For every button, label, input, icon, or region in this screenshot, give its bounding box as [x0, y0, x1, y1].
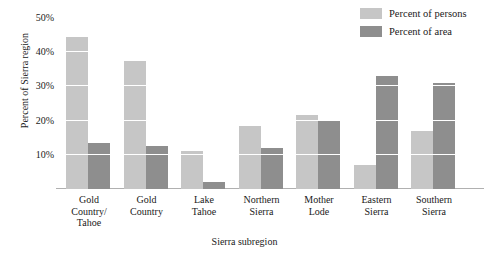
y-axis-tick-label: 10% — [20, 150, 54, 160]
y-axis-tick-label: 40% — [20, 47, 54, 57]
bar-percent-of-area — [146, 146, 168, 189]
y-axis-tick-label: 30% — [20, 81, 54, 91]
bar-chart: Percent of persons Percent of area Perce… — [0, 0, 489, 258]
x-axis-label-line: Tahoe — [47, 217, 131, 229]
gridline — [58, 154, 482, 155]
bar-group — [66, 18, 112, 189]
gridline — [58, 51, 482, 52]
bar-percent-of-persons — [66, 37, 88, 189]
bar-percent-of-area — [203, 182, 225, 189]
x-axis-label-line: Southern — [392, 194, 476, 206]
gridline — [58, 120, 482, 121]
bar-group — [124, 18, 170, 189]
x-axis-title: Sierra subregion — [0, 236, 489, 247]
bar-percent-of-persons — [181, 151, 203, 189]
gridline — [58, 85, 482, 86]
y-axis-tick-label: 50% — [20, 13, 54, 23]
bar-percent-of-persons — [296, 115, 318, 189]
bar-percent-of-persons — [354, 165, 376, 189]
x-axis-label: SouthernSierra — [392, 194, 476, 217]
bar-percent-of-persons — [239, 126, 261, 189]
plot-area — [58, 18, 482, 189]
bar-percent-of-persons — [411, 131, 433, 189]
bar-group — [296, 18, 342, 189]
bar-percent-of-area — [88, 143, 110, 189]
bar-group — [239, 18, 285, 189]
bar-group — [181, 18, 227, 189]
bar-percent-of-area — [376, 76, 398, 189]
x-axis-label-line: Sierra — [392, 206, 476, 218]
bar-percent-of-area — [433, 83, 455, 189]
bar-group — [354, 18, 400, 189]
y-axis-tick-label: 20% — [20, 116, 54, 126]
bar-percent-of-persons — [124, 61, 146, 189]
bar-group — [411, 18, 457, 189]
